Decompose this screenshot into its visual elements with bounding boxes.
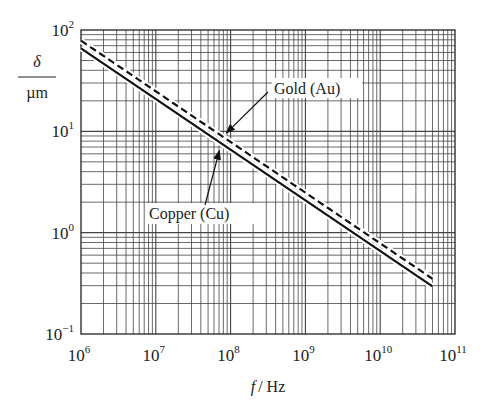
x-tick-label: 107 <box>143 343 166 365</box>
y-tick-label: 10−1 <box>45 322 74 344</box>
y-label-denominator: µm <box>26 84 48 102</box>
x-tick-label: 1011 <box>439 343 467 365</box>
y-tick-label: 101 <box>52 119 75 141</box>
y-tick-labels: 10−1100101102 <box>45 18 74 344</box>
x-label-var: f <box>251 378 258 396</box>
x-label-unit: / Hz <box>258 378 285 395</box>
x-tick-label: 106 <box>68 343 91 365</box>
x-tick-labels: 10610710810910101011 <box>68 343 467 365</box>
y-tick-label: 100 <box>52 221 75 243</box>
x-tick-label: 108 <box>217 343 240 365</box>
gold-annotation-label: Gold (Au) <box>274 80 340 98</box>
y-label-numerator: δ <box>33 53 41 70</box>
y-tick-label: 102 <box>52 18 75 40</box>
skin-depth-chart: Gold (Au)Copper (Cu) 1061071081091010101… <box>0 0 497 419</box>
x-axis-label: f/ Hz <box>251 378 286 396</box>
copper-annotation-label: Copper (Cu) <box>149 205 229 223</box>
copper-arrow <box>205 151 219 205</box>
gold-arrow <box>226 92 268 133</box>
x-tick-label: 109 <box>292 343 315 365</box>
x-tick-label: 1010 <box>364 343 393 365</box>
